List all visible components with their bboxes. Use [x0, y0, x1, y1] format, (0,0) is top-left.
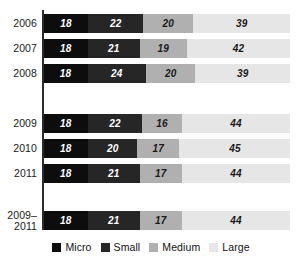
segment-large: 39	[195, 64, 290, 83]
legend-label: Large	[222, 241, 249, 253]
legend-item: Medium	[149, 241, 200, 253]
segment-small: 21	[88, 211, 140, 230]
segment-medium: 17	[137, 139, 179, 158]
segment-micro: 18	[44, 164, 88, 183]
chart-legend: MicroSmallMediumLarge	[0, 241, 302, 253]
legend-label: Medium	[162, 241, 200, 253]
row-label-year: 2010	[0, 139, 37, 158]
bar-row: 201018201745	[0, 139, 302, 158]
segment-micro: 18	[44, 114, 88, 133]
bar-track: 18242039	[44, 64, 291, 83]
segment-medium: 16	[142, 114, 182, 133]
segment-large: 44	[182, 114, 291, 133]
bar-row: 201118211744	[0, 164, 302, 183]
bar-row: 200918221644	[0, 114, 302, 133]
segment-small: 21	[88, 39, 140, 58]
segment-medium: 20	[146, 64, 195, 83]
row-label-year: 2009– 2011	[0, 210, 37, 231]
segment-large: 39	[193, 14, 290, 33]
segment-medium: 17	[140, 211, 182, 230]
segment-medium: 17	[140, 164, 182, 183]
legend-item: Large	[209, 241, 249, 253]
bar-track: 18211942	[44, 39, 291, 58]
row-label-year: 2009	[0, 114, 37, 133]
legend-label: Small	[114, 241, 141, 253]
segment-large: 44	[182, 164, 291, 183]
legend-item: Small	[101, 241, 141, 253]
bar-row: 2009– 201118211744	[0, 211, 302, 230]
segment-micro: 18	[44, 211, 88, 230]
stacked-bar-chart: 2006182220392007182119422008182420392009…	[0, 0, 302, 265]
bar-row: 200718211942	[0, 39, 302, 58]
bar-row: 200618222039	[0, 14, 302, 33]
bar-track: 18211744	[44, 164, 291, 183]
segment-small: 21	[88, 164, 140, 183]
bar-track: 18211744	[44, 211, 291, 230]
segment-medium: 20	[143, 14, 193, 33]
row-label-year: 2007	[0, 39, 37, 58]
legend-swatch-icon	[52, 243, 61, 252]
legend-swatch-icon	[209, 243, 218, 252]
segment-large: 44	[182, 211, 291, 230]
segment-large: 42	[187, 39, 291, 58]
row-label-year: 2008	[0, 64, 37, 83]
row-label-year: 2011	[0, 164, 37, 183]
segment-micro: 18	[44, 14, 89, 33]
segment-large: 45	[179, 139, 290, 158]
segment-micro: 18	[44, 64, 88, 83]
segment-small: 24	[88, 64, 147, 83]
segment-micro: 18	[44, 139, 88, 158]
segment-small: 22	[88, 114, 142, 133]
legend-swatch-icon	[101, 243, 110, 252]
legend-label: Micro	[65, 241, 91, 253]
segment-medium: 19	[140, 39, 187, 58]
segment-small: 22	[88, 14, 143, 33]
legend-item: Micro	[52, 241, 91, 253]
plot-area: 2006182220392007182119422008182420392009…	[0, 10, 302, 232]
segment-micro: 18	[44, 39, 88, 58]
bar-track: 18222039	[44, 14, 291, 33]
segment-small: 20	[88, 139, 137, 158]
bar-track: 18221644	[44, 114, 291, 133]
bar-row: 200818242039	[0, 64, 302, 83]
bar-track: 18201745	[44, 139, 291, 158]
row-label-year: 2006	[0, 14, 37, 33]
legend-swatch-icon	[149, 243, 158, 252]
